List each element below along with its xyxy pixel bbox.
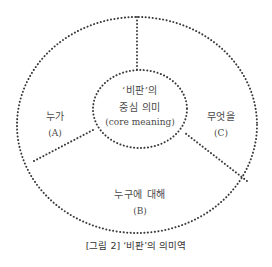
section-a-label: 누가 <box>30 108 80 123</box>
section-a-code: (A) <box>30 128 80 138</box>
section-c-label: 무엇을 <box>191 108 251 123</box>
center-label-line2: 중심 의미 <box>100 99 180 114</box>
figure-caption: [그림 2] ‘비판’의 의미역 <box>0 238 272 252</box>
spoke-right <box>185 133 247 181</box>
section-b-code: (B) <box>95 206 185 216</box>
center-label-line3: (core meaning) <box>95 117 185 127</box>
center-label-line1: ‘비판’의 <box>100 82 180 97</box>
section-c-code: (C) <box>191 128 251 138</box>
section-b-label: 누구에 대해 <box>95 186 185 201</box>
